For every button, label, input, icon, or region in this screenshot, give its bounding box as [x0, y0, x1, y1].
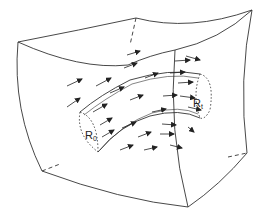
- region-rt-label: Rt: [193, 98, 203, 110]
- r0-base: R: [85, 129, 93, 141]
- surface-block: [17, 10, 252, 207]
- rt-base: R: [193, 97, 201, 109]
- diagram-drawing: [0, 0, 264, 218]
- r0-subscript: 0: [93, 135, 97, 142]
- region-r0-label: R0: [85, 130, 97, 142]
- rt-subscript: t: [201, 103, 203, 110]
- vector-field-diagram: R0 Rt: [0, 0, 264, 218]
